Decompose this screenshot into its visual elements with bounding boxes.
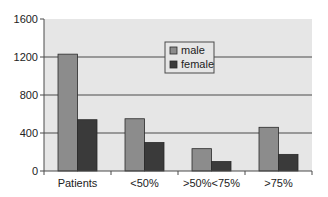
bar-female <box>78 120 98 171</box>
bar-female <box>145 143 165 172</box>
bar-female <box>212 162 232 172</box>
y-tick-label: 0 <box>32 165 38 177</box>
y-tick-label: 1600 <box>14 13 38 25</box>
x-category-label: <50% <box>130 177 159 189</box>
bar-female <box>279 154 299 171</box>
bar-male <box>259 127 279 171</box>
legend: malefemale <box>165 42 214 73</box>
x-axis: Patients<50%>50%<75%>75% <box>44 171 312 189</box>
y-axis: 040080012001600 <box>14 13 44 177</box>
legend-label-male: male <box>181 44 205 56</box>
y-tick-label: 800 <box>20 89 38 101</box>
legend-label-female: female <box>181 58 214 70</box>
y-tick-label: 400 <box>20 127 38 139</box>
bar-male <box>125 119 145 171</box>
x-category-label: Patients <box>58 177 98 189</box>
legend-swatch-female <box>170 61 177 68</box>
bar-chart: 040080012001600 Patients<50%>50%<75%>75%… <box>0 0 328 197</box>
x-category-label: >75% <box>264 177 293 189</box>
legend-swatch-male <box>170 47 177 54</box>
x-category-label: >50%<75% <box>183 177 240 189</box>
y-tick-label: 1200 <box>14 51 38 63</box>
bar-male <box>192 149 212 171</box>
bar-male <box>58 54 78 171</box>
